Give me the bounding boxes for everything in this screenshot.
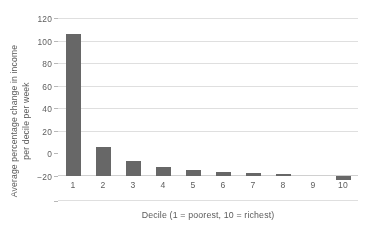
x-tick-label-2: 2 xyxy=(88,180,118,194)
x-tick-label-3: 3 xyxy=(118,180,148,194)
bar-decile-5 xyxy=(186,170,201,176)
bar-chart: Average percentage change in income per … xyxy=(0,0,373,238)
gridline-minus-20 xyxy=(58,200,358,201)
bar-series xyxy=(58,18,358,176)
bar-slot-1 xyxy=(58,18,88,176)
y-tick-label-0: 0 xyxy=(26,149,52,159)
bar-slot-8 xyxy=(268,18,298,176)
x-tick-label-6: 6 xyxy=(208,180,238,194)
y-tick-label-minus-20: −20 xyxy=(26,172,52,182)
x-tick-label-4: 4 xyxy=(148,180,178,194)
bar-slot-3 xyxy=(118,18,148,176)
y-tick-label-120: 120 xyxy=(26,14,52,24)
bar-slot-4 xyxy=(148,18,178,176)
y-tick-label-20: 20 xyxy=(26,127,52,137)
y-axis-tick-labels: 120 100 80 60 40 20 0 −20 xyxy=(22,0,52,238)
x-tick-label-1: 1 xyxy=(58,180,88,194)
bar-slot-5 xyxy=(178,18,208,176)
bar-decile-4 xyxy=(156,167,171,176)
bar-decile-8 xyxy=(276,174,291,176)
bar-slot-10 xyxy=(328,18,358,176)
y-tick-label-100: 100 xyxy=(26,37,52,47)
y-tick-label-80: 80 xyxy=(26,59,52,69)
y-tick-label-40: 40 xyxy=(26,104,52,114)
x-axis-title: Decile (1 = poorest, 10 = richest) xyxy=(58,210,358,220)
bar-decile-6 xyxy=(216,172,231,176)
bar-slot-6 xyxy=(208,18,238,176)
x-axis-tick-labels: 1 2 3 4 5 6 7 8 9 10 xyxy=(58,180,358,194)
bar-decile-2 xyxy=(96,147,111,176)
bar-decile-1 xyxy=(66,34,81,176)
bar-slot-7 xyxy=(238,18,268,176)
x-tick-label-5: 5 xyxy=(178,180,208,194)
x-tick-label-10: 10 xyxy=(328,180,358,194)
y-tick-label-60: 60 xyxy=(26,82,52,92)
x-tick-label-7: 7 xyxy=(238,180,268,194)
y-axis-title-line-1: Average percentage change in income xyxy=(9,45,21,197)
bar-decile-7 xyxy=(246,173,261,176)
x-tick-label-8: 8 xyxy=(268,180,298,194)
x-tick-label-9: 9 xyxy=(298,180,328,194)
bar-decile-3 xyxy=(126,161,141,176)
bar-slot-2 xyxy=(88,18,118,176)
bar-slot-9 xyxy=(298,18,328,176)
